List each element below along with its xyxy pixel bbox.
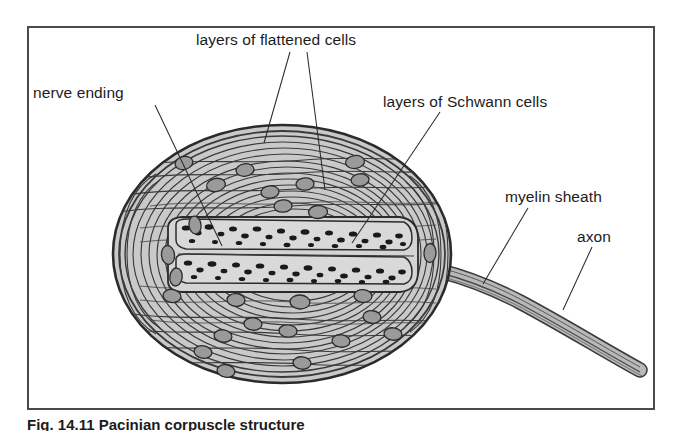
leader-myelin [483,208,528,284]
label-axon: axon [577,228,611,246]
label-nerve-ending: nerve ending [33,84,124,102]
figure-caption: Fig. 14.11 Pacinian corpuscle structure [27,416,305,431]
pacinian-corpuscle-diagram [0,0,673,431]
label-myelin-sheath: myelin sheath [505,188,602,206]
label-layers-of-schwann-cells: layers of Schwann cells [383,93,547,111]
label-layers-of-flattened-cells: layers of flattened cells [196,31,356,49]
figure-root: layers of flattened cells nerve ending l… [0,0,673,431]
leader-axon [563,247,592,310]
